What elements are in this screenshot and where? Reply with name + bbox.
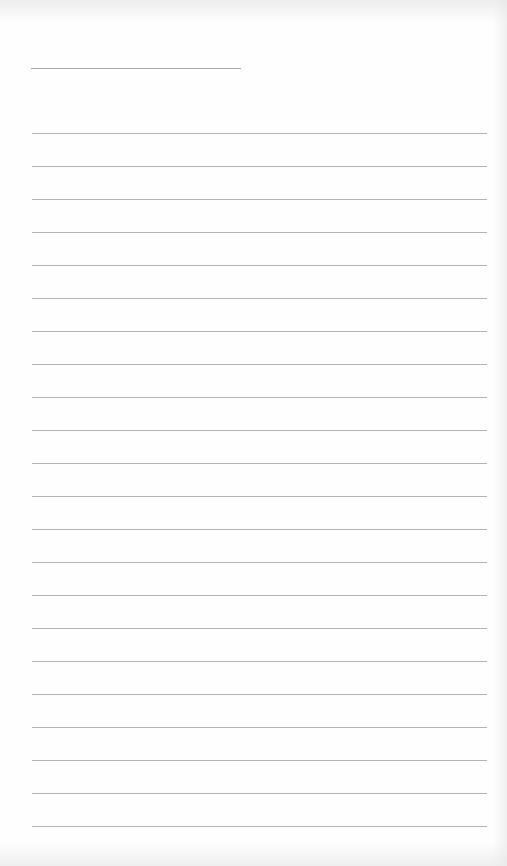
ruled-line bbox=[32, 694, 487, 695]
ruled-line bbox=[32, 331, 487, 332]
ruled-line bbox=[32, 760, 487, 761]
ruled-line bbox=[32, 166, 487, 167]
ruled-line bbox=[32, 364, 487, 365]
ruled-line bbox=[32, 463, 487, 464]
ruled-line bbox=[32, 199, 487, 200]
ruled-line bbox=[32, 826, 487, 827]
ruled-line bbox=[32, 661, 487, 662]
ruled-line bbox=[32, 595, 487, 596]
ruled-line bbox=[32, 265, 487, 266]
ruled-line bbox=[32, 628, 487, 629]
ruled-line bbox=[32, 727, 487, 728]
ruled-line bbox=[32, 133, 487, 134]
ruled-line bbox=[32, 793, 487, 794]
header-name-line bbox=[31, 68, 241, 69]
ruled-line bbox=[32, 397, 487, 398]
ruled-line bbox=[32, 298, 487, 299]
ruled-line bbox=[32, 232, 487, 233]
lined-paper-page bbox=[0, 0, 507, 866]
ruled-line bbox=[32, 529, 487, 530]
ruled-line bbox=[32, 430, 487, 431]
ruled-line bbox=[32, 562, 487, 563]
ruled-line bbox=[32, 496, 487, 497]
